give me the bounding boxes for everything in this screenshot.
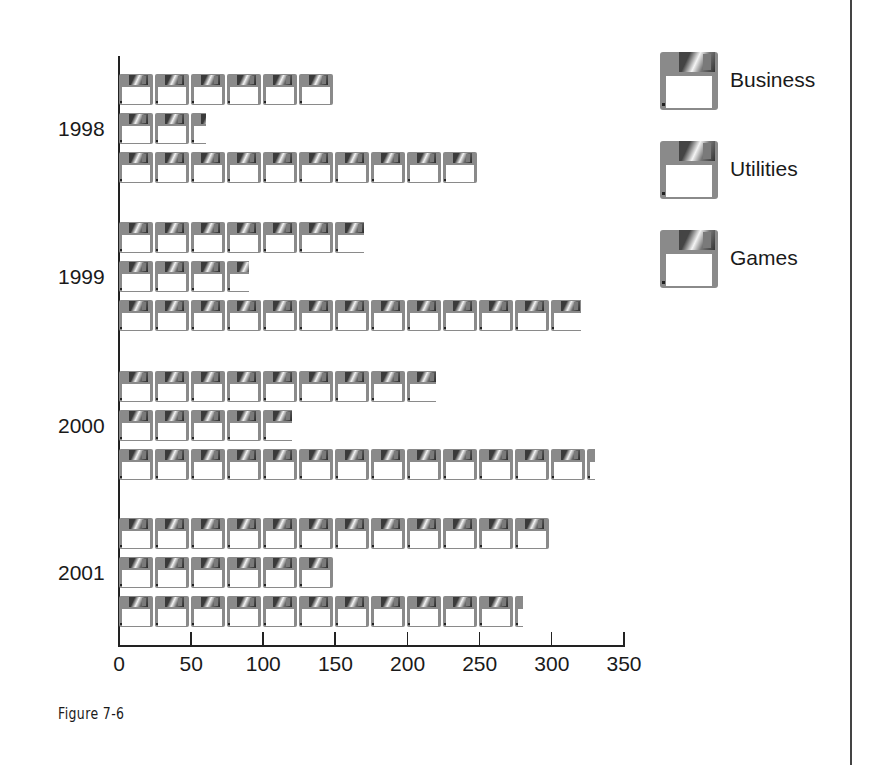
floppy-disk-icon <box>263 371 297 402</box>
floppy-disk-icon <box>119 596 153 627</box>
floppy-disk-icon <box>551 300 581 331</box>
floppy-disk-icon <box>263 596 297 627</box>
floppy-disk-icon <box>443 518 477 549</box>
bar-utilities-1998 <box>119 113 206 145</box>
floppy-disk-icon <box>155 300 189 331</box>
legend-label: Utilities <box>730 157 798 181</box>
y-category-label: 2000 <box>58 414 105 438</box>
floppy-disk-icon <box>371 371 405 402</box>
floppy-disk-icon <box>335 300 369 331</box>
y-category-label: 2001 <box>58 561 105 585</box>
x-tick <box>334 632 336 646</box>
floppy-disk-icon <box>407 518 441 549</box>
bar-utilities-2000 <box>119 410 292 442</box>
floppy-disk-icon <box>263 449 297 480</box>
x-axis <box>118 645 625 647</box>
floppy-disk-icon <box>155 371 189 402</box>
page-divider-line <box>850 0 852 765</box>
floppy-disk-icon <box>227 557 261 588</box>
floppy-disk-icon <box>155 261 189 292</box>
floppy-disk-icon <box>443 300 477 331</box>
floppy-disk-icon <box>155 518 189 549</box>
x-tick-label: 250 <box>462 652 497 676</box>
x-tick-label: 150 <box>318 652 353 676</box>
bar-games-1999 <box>119 300 581 332</box>
x-tick-label: 300 <box>534 652 569 676</box>
floppy-disk-icon <box>660 230 718 288</box>
floppy-disk-icon <box>227 518 261 549</box>
floppy-disk-icon <box>371 300 405 331</box>
floppy-disk-icon <box>191 518 225 549</box>
floppy-disk-icon <box>227 410 261 441</box>
floppy-disk-icon <box>155 410 189 441</box>
floppy-disk-icon <box>299 557 333 588</box>
floppy-disk-icon <box>263 222 297 253</box>
floppy-disk-icon <box>119 222 153 253</box>
floppy-disk-icon <box>119 449 153 480</box>
bar-games-2000 <box>119 449 595 481</box>
floppy-disk-icon <box>443 596 477 627</box>
floppy-disk-icon <box>515 449 549 480</box>
floppy-disk-icon <box>227 596 261 627</box>
floppy-disk-icon <box>155 596 189 627</box>
floppy-disk-icon <box>443 449 477 480</box>
floppy-disk-icon <box>371 152 405 183</box>
floppy-disk-icon <box>660 52 718 110</box>
floppy-disk-icon <box>227 222 261 253</box>
x-tick-label: 350 <box>606 652 641 676</box>
x-tick <box>190 632 192 646</box>
floppy-disk-icon <box>371 449 405 480</box>
floppy-disk-icon <box>299 74 333 105</box>
floppy-disk-icon <box>155 74 189 105</box>
floppy-disk-icon <box>407 449 441 480</box>
floppy-disk-icon <box>191 449 225 480</box>
floppy-disk-icon <box>371 518 405 549</box>
floppy-disk-icon <box>407 371 436 402</box>
floppy-disk-icon <box>479 449 513 480</box>
floppy-disk-icon <box>119 300 153 331</box>
x-tick <box>262 632 264 646</box>
floppy-disk-icon <box>515 596 523 627</box>
legend-label: Games <box>730 246 798 270</box>
y-category-label: 1998 <box>58 117 105 141</box>
floppy-disk-icon <box>119 557 153 588</box>
floppy-disk-icon <box>227 449 261 480</box>
floppy-disk-icon <box>155 449 189 480</box>
floppy-disk-icon <box>335 596 369 627</box>
x-tick <box>479 632 481 646</box>
floppy-disk-icon <box>227 74 261 105</box>
floppy-disk-icon <box>119 261 153 292</box>
floppy-disk-icon <box>119 152 153 183</box>
floppy-disk-icon <box>227 152 261 183</box>
floppy-disk-icon <box>299 300 333 331</box>
floppy-disk-icon <box>191 222 225 253</box>
floppy-disk-icon <box>479 596 513 627</box>
floppy-disk-icon <box>299 449 333 480</box>
floppy-disk-icon <box>407 152 441 183</box>
x-tick-label: 50 <box>179 652 202 676</box>
floppy-disk-icon <box>191 74 225 105</box>
figure-caption: Figure 7-6 <box>58 704 124 723</box>
floppy-disk-icon <box>407 596 441 627</box>
floppy-disk-icon <box>191 596 225 627</box>
bar-utilities-2001 <box>119 557 335 589</box>
floppy-disk-icon <box>155 152 189 183</box>
floppy-disk-icon <box>299 152 333 183</box>
floppy-disk-icon <box>335 449 369 480</box>
floppy-disk-icon <box>191 261 225 292</box>
x-tick-label: 200 <box>390 652 425 676</box>
floppy-disk-icon <box>155 113 189 144</box>
floppy-disk-icon <box>191 113 206 144</box>
floppy-disk-icon <box>335 152 369 183</box>
floppy-disk-icon <box>335 371 369 402</box>
floppy-disk-icon <box>371 596 405 627</box>
floppy-disk-icon <box>407 300 441 331</box>
floppy-disk-icon <box>227 300 261 331</box>
floppy-disk-icon <box>587 449 595 480</box>
floppy-disk-icon <box>660 141 718 199</box>
floppy-disk-icon <box>299 222 333 253</box>
floppy-disk-icon <box>119 113 153 144</box>
floppy-disk-icon <box>479 300 513 331</box>
floppy-disk-icon <box>299 518 333 549</box>
bar-business-1999 <box>119 222 364 254</box>
